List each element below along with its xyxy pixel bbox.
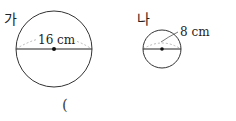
- circle-diagrams: [0, 0, 236, 121]
- circle-a: [16, 11, 92, 87]
- diameter-label: 16 cm: [37, 34, 76, 47]
- radius-label: 8 cm: [180, 26, 210, 39]
- circle-b: [143, 30, 181, 68]
- answer-blank: (: [62, 96, 68, 114]
